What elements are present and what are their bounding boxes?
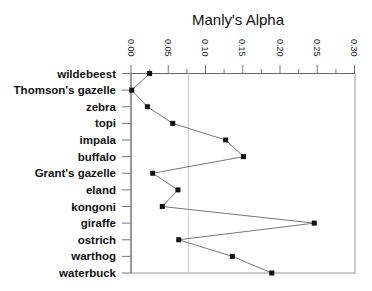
category-label: wildebeest bbox=[56, 68, 116, 80]
series-line bbox=[132, 74, 315, 274]
category-label: warthog bbox=[70, 250, 116, 262]
x-tick-label: 0.15 bbox=[237, 39, 247, 57]
category-label: zebra bbox=[86, 101, 117, 113]
chart-title: Manly's Alpha bbox=[192, 11, 285, 28]
data-point-marker bbox=[129, 88, 134, 93]
category-label: Thomson's gazelle bbox=[14, 84, 116, 96]
data-point-marker bbox=[269, 271, 274, 276]
category-label: giraffe bbox=[81, 217, 116, 229]
data-point-marker bbox=[176, 237, 181, 242]
manlys-alpha-chart: Manly's Alpha 0.000.050.100.150.200.250.… bbox=[0, 0, 372, 291]
data-point-marker bbox=[145, 104, 150, 109]
x-tick-label: 0.10 bbox=[200, 39, 210, 57]
plot-frame bbox=[131, 74, 355, 274]
category-label: waterbuck bbox=[58, 267, 116, 279]
category-label: kongoni bbox=[71, 201, 116, 213]
category-label: Grant's gazelle bbox=[35, 167, 116, 179]
data-point-marker bbox=[150, 171, 155, 176]
plot-area: 0.000.050.100.150.200.250.30wildebeestTh… bbox=[14, 39, 359, 279]
x-tick-label: 0.20 bbox=[275, 39, 285, 57]
category-label: topi bbox=[95, 117, 116, 129]
category-label: ostrich bbox=[78, 234, 116, 246]
data-point-marker bbox=[170, 121, 175, 126]
data-point-marker bbox=[241, 154, 246, 159]
x-tick-label: 0.30 bbox=[349, 39, 359, 57]
data-point-marker bbox=[147, 71, 152, 76]
data-point-marker bbox=[160, 204, 165, 209]
category-label: eland bbox=[86, 184, 116, 196]
data-point-marker bbox=[223, 138, 228, 143]
x-tick-label: 0.05 bbox=[163, 39, 173, 57]
category-label: buffalo bbox=[78, 151, 116, 163]
data-point-marker bbox=[175, 187, 180, 192]
data-point-marker bbox=[230, 254, 235, 259]
x-tick-label: 0.25 bbox=[312, 39, 322, 57]
data-point-marker bbox=[312, 221, 317, 226]
x-tick-label: 0.00 bbox=[126, 39, 136, 57]
category-label: impala bbox=[80, 134, 117, 146]
